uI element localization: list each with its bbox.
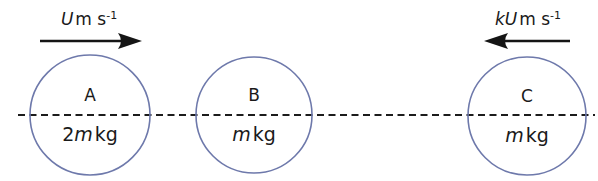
velocity-unit-a: m s	[75, 9, 106, 29]
arrow-head-left-icon	[484, 33, 508, 49]
arrow-head-right-icon	[118, 33, 142, 49]
velocity-symbol-c: kU	[495, 9, 518, 29]
velocity-exponent-c: -1	[550, 9, 561, 22]
mass-prefix-a: 2	[62, 123, 74, 145]
body-mass-label-a: 2mkg	[62, 123, 118, 145]
body-label-c: C	[521, 86, 533, 106]
diagram-canvas: A 2mkg B mkg C mkg Um s-1 kUm s-1	[0, 0, 598, 181]
velocity-symbol-a: U	[61, 9, 74, 29]
mass-unit-c: kg	[526, 124, 549, 146]
body-mass-label-c: mkg	[505, 124, 549, 146]
velocity-unit-c: m s	[519, 9, 550, 29]
velocity-label-c: kUm s-1	[495, 9, 561, 29]
mass-symbol-b: m	[232, 123, 251, 145]
velocity-label-a: Um s-1	[61, 9, 117, 29]
body-label-a: A	[84, 85, 96, 105]
mass-symbol-a: m	[74, 123, 93, 145]
body-mass-label-b: mkg	[232, 123, 276, 145]
body-label-b: B	[248, 85, 260, 105]
velocity-exponent-a: -1	[106, 9, 117, 22]
mass-symbol-c: m	[505, 124, 524, 146]
mass-unit-b: kg	[253, 123, 276, 145]
physics-diagram: A 2mkg B mkg C mkg Um s-1 kUm s-1	[0, 0, 598, 181]
mass-unit-a: kg	[95, 123, 118, 145]
